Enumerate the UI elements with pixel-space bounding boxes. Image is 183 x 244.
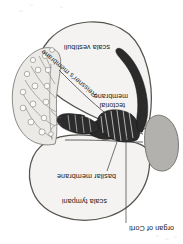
label-tectorial-membrane-line2: membrane	[94, 93, 128, 100]
cochlear-duct-diagram: organ of Corti scala tympani basilar mem…	[0, 0, 183, 244]
label-scala-vestibuli: scala vestibuli	[63, 43, 110, 52]
label-tectorial-membrane-line1: tectorial	[99, 102, 125, 109]
label-scala-tympani: scala tympani	[61, 197, 107, 206]
rotated-plate: organ of Corti scala tympani basilar mem…	[0, 0, 183, 244]
label-organ-of-corti: organ of Corti	[129, 224, 174, 233]
label-basilar-membrane: basilar membrane	[57, 172, 116, 181]
stria-vascularis	[145, 115, 179, 171]
figure-root: organ of Corti scala tympani basilar mem…	[0, 0, 183, 244]
